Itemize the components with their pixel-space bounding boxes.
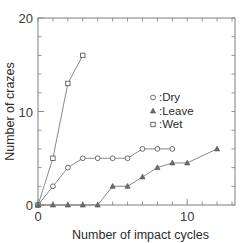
legend-marker <box>150 108 155 113</box>
craze-count-line-chart: 01020010Number of impact cyclesNumber of… <box>0 0 248 243</box>
data-point <box>51 156 55 160</box>
data-point <box>95 156 100 161</box>
y-tick-label: 0 <box>26 198 33 213</box>
data-point <box>110 156 115 161</box>
x-tick-label: 10 <box>180 209 194 224</box>
legend-label: :Dry <box>159 91 180 103</box>
chart-figure: 01020010Number of impact cyclesNumber of… <box>0 0 248 243</box>
data-point <box>66 81 70 85</box>
data-point <box>80 156 85 161</box>
plot-frame <box>38 18 235 205</box>
legend-label: :Leave <box>159 105 194 117</box>
legend-label: :Wet <box>159 118 183 130</box>
data-point <box>65 165 70 170</box>
data-point <box>155 147 160 152</box>
y-axis-title: Number of crazes <box>3 62 17 161</box>
series-line <box>38 55 83 205</box>
x-tick-label: 0 <box>34 209 41 224</box>
y-tick-label: 20 <box>19 11 33 26</box>
data-point <box>81 53 85 57</box>
data-point <box>140 147 145 152</box>
data-point <box>51 184 56 189</box>
y-tick-label: 10 <box>19 105 33 120</box>
x-axis-title: Number of impact cycles <box>72 228 209 242</box>
data-point <box>140 174 145 179</box>
data-point <box>125 156 130 161</box>
series-line <box>38 149 172 205</box>
data-point <box>214 146 219 151</box>
legend-marker <box>151 95 156 100</box>
legend-marker <box>151 122 155 126</box>
data-point <box>170 147 175 152</box>
